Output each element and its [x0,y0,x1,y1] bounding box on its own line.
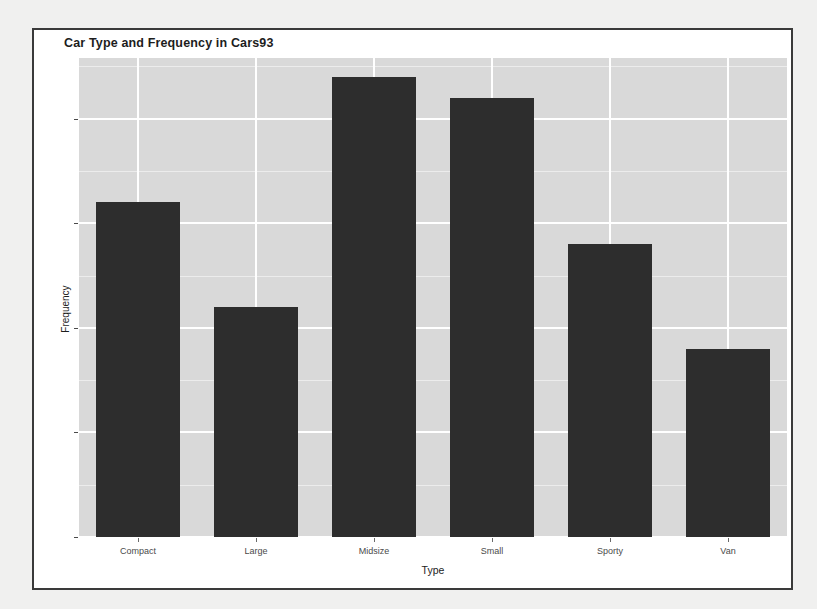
gridline-major-y [79,327,787,329]
x-tick-mark [492,538,493,542]
x-tick-mark [728,538,729,542]
x-tick-label-large: Large [244,546,267,556]
bar-compact[interactable] [96,202,181,537]
plot-window-frame: Car Type and Frequency in Cars93 0510152… [32,28,793,590]
bar-midsize[interactable] [332,77,417,537]
chart-title: Car Type and Frequency in Cars93 [64,36,274,50]
gridline-major-y [79,222,787,224]
bar-large[interactable] [214,307,299,537]
x-tick-mark [610,538,611,542]
bar-chart: Car Type and Frequency in Cars93 0510152… [34,30,791,588]
x-tick-label-small: Small [481,546,504,556]
x-tick-label-van: Van [720,546,735,556]
x-axis-title: Type [79,564,787,576]
x-tick-mark [374,538,375,542]
bar-van[interactable] [686,349,771,537]
x-tick-label-compact: Compact [120,546,156,556]
x-tick-mark [138,538,139,542]
gridline-major-y [79,536,787,537]
gridline-major-y [79,118,787,120]
bar-sporty[interactable] [568,244,653,537]
gridline-minor-y [79,380,787,381]
gridline-minor-y [79,276,787,277]
x-tick-label-midsize: Midsize [359,546,390,556]
x-tick-mark [256,538,257,542]
y-tick-mark [74,119,78,120]
gridline-minor-y [79,485,787,486]
plot-panel [79,58,787,537]
screenshot-canvas: Car Type and Frequency in Cars93 0510152… [0,0,817,609]
x-tick-label-sporty: Sporty [597,546,623,556]
y-tick-mark [74,223,78,224]
y-tick-mark [74,328,78,329]
gridline-minor-y [79,66,787,67]
y-axis-title: Frequency [60,285,71,332]
bar-small[interactable] [450,98,535,537]
gridline-major-y [79,431,787,433]
y-tick-mark [74,537,78,538]
gridline-minor-y [79,171,787,172]
y-tick-mark [74,432,78,433]
